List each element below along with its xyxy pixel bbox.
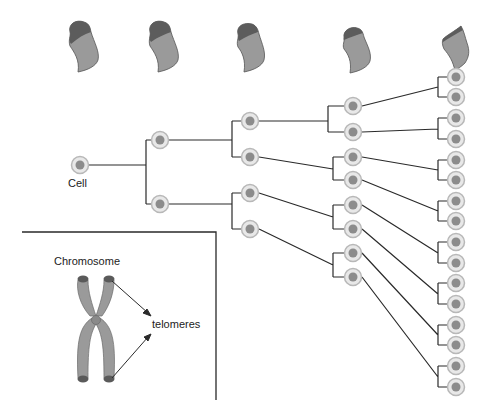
telomeres-label: telomeres [152, 318, 201, 330]
telomere-cap [78, 276, 89, 283]
cell-gen3 [345, 245, 362, 262]
cell-gen4 [448, 131, 465, 148]
cell-gen4 [448, 317, 465, 334]
cell-gen2 [242, 113, 259, 130]
chromosome-icon-2 [149, 21, 178, 72]
cell-gen2 [242, 221, 259, 238]
cell-gen3 [345, 172, 362, 189]
cell-gen4 [448, 172, 465, 189]
cell-gen4 [448, 152, 465, 169]
telomere-arrows [112, 281, 151, 378]
chromosome-label: Chromosome [54, 255, 120, 267]
chromosome-inset: Chromosome telomeres [22, 232, 216, 400]
cell-gen4 [448, 337, 465, 354]
chromosome-figure [78, 276, 115, 383]
cell-gen3 [345, 124, 362, 141]
chromosome-sequence [69, 21, 468, 73]
cell-gen4 [448, 193, 465, 210]
cell-gen3 [345, 269, 362, 286]
telomere-cap [78, 376, 89, 383]
chromosome-icon-5 [442, 26, 468, 71]
cell-gen2 [242, 149, 259, 166]
cell-gen1 [152, 132, 169, 149]
cell-gen4 [448, 234, 465, 251]
cell-gen4 [448, 89, 465, 106]
cell-division-diagram: Cell Chromosome telomeres [0, 0, 488, 420]
cell-gen4 [448, 213, 465, 230]
chromosome-icon-4 [343, 28, 370, 73]
cell-gen3 [345, 149, 362, 166]
cell-gen3 [345, 197, 362, 214]
cell-gen4 [448, 275, 465, 292]
cell-label: Cell [68, 177, 87, 189]
cell-gen4 [448, 379, 465, 396]
cell-gen4 [448, 69, 465, 86]
cell-gen1 [152, 196, 169, 213]
cell-gen4 [448, 358, 465, 375]
cell-gen3 [345, 221, 362, 238]
chromosome-icon-3 [237, 23, 264, 72]
cell-gen4 [448, 255, 465, 272]
cell-gen2 [242, 185, 259, 202]
cell-gen4 [448, 110, 465, 127]
cell-gen4 [448, 296, 465, 313]
chromosome-icon-1 [69, 21, 98, 72]
cell-root [72, 157, 89, 174]
cell-gen3 [345, 98, 362, 115]
